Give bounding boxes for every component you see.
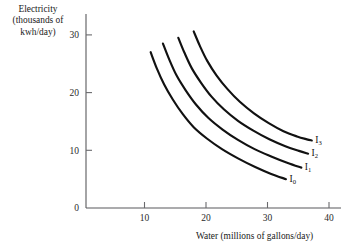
chart-container: 010203010203040 Electricity (thousands o… <box>0 0 343 251</box>
curve-label-subscript: 1 <box>308 166 311 173</box>
y-axis-tick-label: 20 <box>70 88 80 98</box>
y-axis-tick-label: 10 <box>70 146 80 156</box>
curve-I2 <box>178 38 308 154</box>
axis-tick-labels: 010203010203040 <box>70 30 335 223</box>
curve-label-I0: I0 <box>289 173 296 184</box>
y-axis-title-line-1: Electricity <box>2 4 74 15</box>
x-axis-title: Water (millions of gallons/day) <box>196 231 313 241</box>
curve-label-I3: I3 <box>315 134 322 145</box>
data-curves <box>151 31 312 179</box>
curve-label-I2: I2 <box>312 147 319 158</box>
curve-label-subscript: 0 <box>293 178 296 185</box>
curve-I3 <box>194 31 312 140</box>
y-axis-title-line-3: kwh/day) <box>2 27 74 38</box>
x-axis-tick-label: 20 <box>201 213 211 223</box>
curve-I0 <box>151 52 286 179</box>
curve-label-I1: I1 <box>305 161 312 172</box>
x-axis-tick-label: 40 <box>324 213 334 223</box>
curve-I1 <box>163 44 301 168</box>
x-axis-tick-label: 10 <box>140 213 150 223</box>
curve-label-subscript: 2 <box>315 152 318 159</box>
y-axis-title-line-2: (thousands of <box>2 15 74 26</box>
x-axis-tick-label: 30 <box>263 213 273 223</box>
y-axis-title: Electricity (thousands of kwh/day) <box>2 4 74 38</box>
axes <box>86 14 341 208</box>
y-axis-tick-label: 0 <box>74 203 79 213</box>
curve-label-subscript: 3 <box>318 139 321 146</box>
